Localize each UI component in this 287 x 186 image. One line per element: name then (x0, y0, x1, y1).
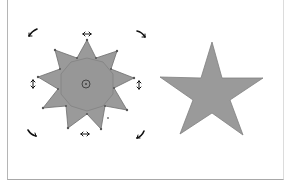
skew-handle[interactable] (107, 117, 109, 119)
rotate-handle-bottom-right-icon (137, 131, 144, 138)
drawing-canvas[interactable] (0, 0, 287, 186)
rotate-handle-top-left-icon (29, 29, 37, 36)
five-point-star[interactable] (160, 42, 263, 135)
canvas-svg (0, 0, 287, 186)
skew-handle-top-icon (83, 32, 91, 36)
skew-handle-bottom-icon (81, 132, 89, 136)
skew-handle-right-icon (137, 81, 141, 89)
rotate-handle-top-right-icon (137, 31, 145, 37)
ten-point-star[interactable] (37, 39, 135, 130)
skew-handle-left-icon (31, 80, 35, 88)
